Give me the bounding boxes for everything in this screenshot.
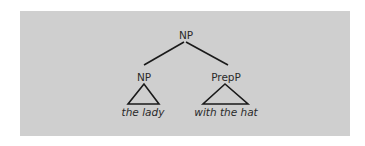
edge-root-to-np [144,42,184,65]
leaf-with-the-hat: with the hat [194,107,257,118]
tree-edges [0,0,365,146]
edge-root-to-prepp [186,42,228,65]
leaf-the-lady: the lady [122,107,165,118]
node-prepp: PrepP [211,72,241,83]
triangle-np [128,84,159,104]
node-root-np: NP [179,30,193,41]
node-np: NP [137,72,151,83]
triangle-prepp [203,84,248,104]
